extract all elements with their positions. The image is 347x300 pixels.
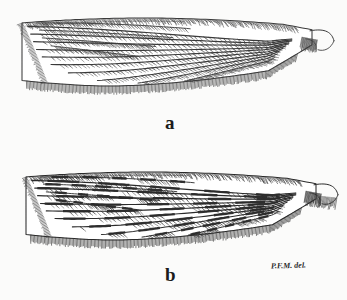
artist-signature: P.F.M. del.	[271, 261, 306, 271]
wing-plate-illustration	[0, 0, 347, 300]
figure-label-b: b	[165, 265, 176, 284]
figure-label-a: a	[165, 113, 175, 132]
